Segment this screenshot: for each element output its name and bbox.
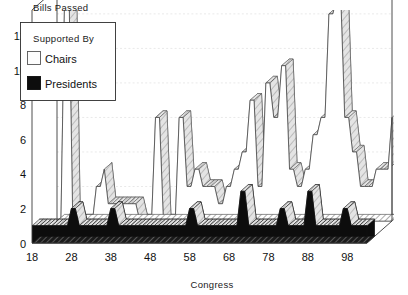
chart-canvas: 182838485868788898 024681012 Congress Su…: [0, 0, 408, 295]
x-tick-label-78: 78: [262, 251, 274, 263]
x-tick-label-58: 58: [184, 251, 196, 263]
legend-label-chairs: Chairs: [45, 53, 77, 65]
x-axis-ticks: 182838485868788898: [26, 251, 354, 263]
y-tick-label-4: 4: [20, 168, 26, 180]
y-tick-label-8: 8: [20, 99, 26, 111]
x-tick-label-98: 98: [341, 251, 353, 263]
y-tick-label-6: 6: [20, 134, 26, 146]
bills-passed-chart: 182838485868788898 024681012 Congress Su…: [0, 0, 408, 295]
ribbon-floor-slab: [32, 236, 375, 243]
y-tick-label-2: 2: [20, 203, 26, 215]
chart-title: Bills Passed: [33, 2, 88, 13]
legend-heading: Supported By: [33, 33, 94, 44]
x-tick-label-48: 48: [144, 251, 156, 263]
legend-swatch-presidents[interactable]: [28, 77, 41, 90]
legend: Supported By Chairs Presidents: [21, 23, 116, 101]
x-tick-label-68: 68: [223, 251, 235, 263]
x-tick-label-38: 38: [105, 251, 117, 263]
x-tick-label-18: 18: [26, 251, 38, 263]
x-tick-label-28: 28: [65, 251, 77, 263]
legend-swatch-chairs[interactable]: [28, 52, 41, 65]
x-axis-label: Congress: [190, 279, 233, 290]
y-tick-label-0: 0: [20, 238, 26, 250]
legend-label-presidents: Presidents: [45, 78, 97, 90]
x-tick-label-88: 88: [302, 251, 314, 263]
